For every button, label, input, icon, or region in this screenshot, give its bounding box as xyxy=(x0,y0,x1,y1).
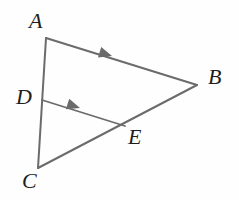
vertex-label-c: C xyxy=(22,170,37,192)
segment-de xyxy=(42,100,125,126)
vertex-label-e: E xyxy=(128,126,141,148)
segment-ab xyxy=(46,38,197,85)
segment-ac xyxy=(38,38,46,168)
vertex-label-d: D xyxy=(16,86,32,108)
vertex-label-b: B xyxy=(208,66,221,88)
geometry-figure: A B C D E xyxy=(0,0,239,200)
segment-cb xyxy=(38,85,197,168)
vertex-label-a: A xyxy=(29,10,42,32)
